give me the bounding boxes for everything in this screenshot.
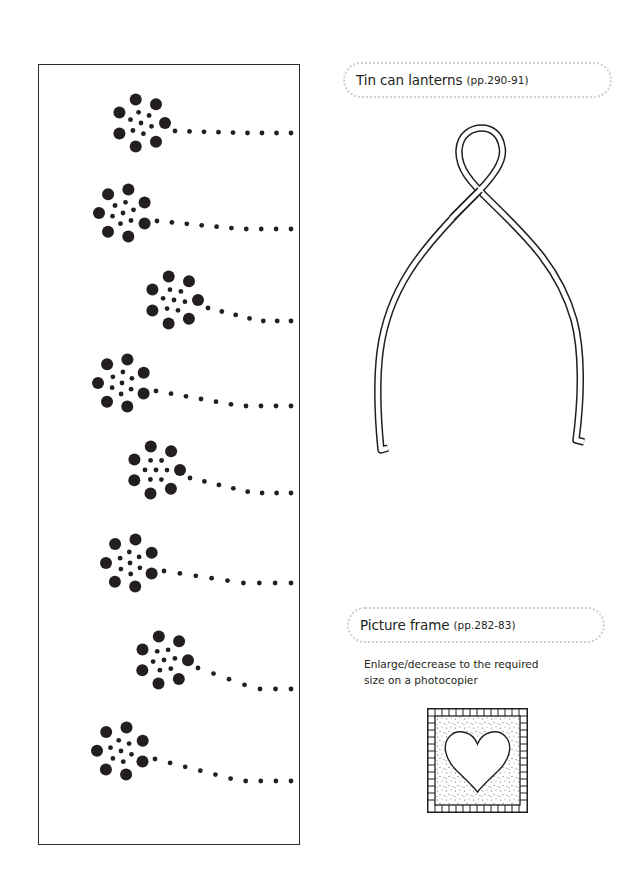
- section-title: Picture frame: [360, 617, 449, 633]
- heart-frame-icon: [427, 708, 528, 813]
- wishbone-shape-icon: [0, 0, 642, 888]
- note-line: size on a photocopier: [364, 672, 564, 688]
- photocopier-note: Enlarge/decrease to the required size on…: [364, 656, 564, 688]
- note-line: Enlarge/decrease to the required: [364, 656, 564, 672]
- page-reference: (pp.282-83): [453, 619, 515, 631]
- picture-frame-label: Picture frame (pp.282-83): [347, 607, 605, 643]
